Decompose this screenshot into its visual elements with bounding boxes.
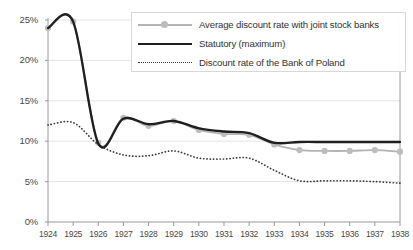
y-axis-tick-label: 20% (4, 54, 38, 65)
legend-item-average-discount-rate: Average discount rate with joint stock b… (138, 16, 379, 33)
discount-rate-line-chart: 0%5%10%15%20%25% 19241925192619271928192… (0, 0, 413, 250)
legend-label-statutory: Statutory (maximum) (199, 38, 285, 49)
data-point-marker (321, 148, 327, 154)
data-point-marker (372, 147, 378, 153)
legend-swatch-line-marker-icon (138, 19, 192, 31)
legend-swatch-dotted-line-icon (138, 57, 192, 69)
legend-label-bank-of-poland: Discount rate of the Bank of Poland (199, 57, 345, 68)
data-point-marker (347, 148, 353, 154)
y-axis-tick-label: 5% (4, 176, 38, 187)
legend-label-average-discount-rate: Average discount rate with joint stock b… (199, 19, 379, 30)
legend-swatch-solid-line-icon (138, 38, 192, 50)
data-point-marker (397, 149, 403, 155)
y-axis-tick-label: 10% (4, 135, 38, 146)
y-axis-tick-label: 25% (4, 14, 38, 25)
legend-item-bank-of-poland: Discount rate of the Bank of Poland (138, 54, 345, 71)
legend-item-statutory: Statutory (maximum) (138, 35, 285, 52)
y-axis-tick-label: 0% (4, 216, 38, 227)
data-point-marker (296, 147, 302, 153)
chart-legend: Average discount rate with joint stock b… (131, 12, 406, 72)
y-axis-tick-label: 15% (4, 95, 38, 106)
x-axis-ticks (48, 222, 400, 226)
x-axis-tick-label: 1938 (383, 229, 413, 239)
